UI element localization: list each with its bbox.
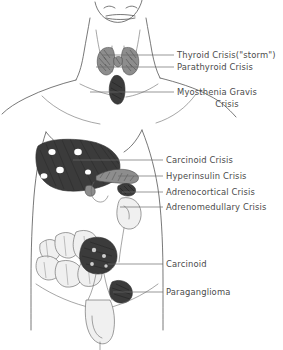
thyroid-gland xyxy=(97,47,139,75)
label-thyroid-crisis: Thyroid Crisis("storm") xyxy=(177,50,276,60)
label-hyperinsulin-crisis: Hyperinsulin Crisis xyxy=(166,171,247,181)
label-adrenomedullary-crisis: Adrenomedullary Crisis xyxy=(166,202,267,212)
abdomen-pelvis-panel xyxy=(31,130,163,350)
label-adrenocortical-crisis: Adrenocortical Crisis xyxy=(166,187,255,197)
label-myasthenia-gravis: Myosthenia Gravis xyxy=(177,87,257,97)
thymus-gland xyxy=(109,75,125,104)
adrenal-gland xyxy=(118,184,136,196)
bladder xyxy=(85,300,114,350)
label-carcinoid: Carcinoid xyxy=(166,259,207,269)
liver xyxy=(36,139,120,191)
label-myasthenia-gravis-crisis: Crisis xyxy=(177,99,277,109)
label-parathyroid-crisis: Parathyroid Crisis xyxy=(177,62,253,72)
anatomical-figure: Thyroid Crisis("storm") Parathyroid Cris… xyxy=(0,0,283,350)
label-paraganglioma: Paraganglioma xyxy=(166,287,230,297)
label-carcinoid-crisis: Carcinoid Crisis xyxy=(166,155,233,165)
